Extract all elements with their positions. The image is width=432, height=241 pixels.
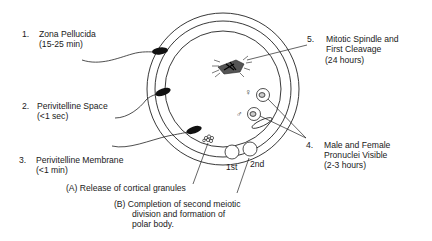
male-symbol: ♂: [236, 109, 242, 119]
label-2-title: Perivitelline Space: [37, 101, 108, 112]
label-1-title: Zona Pellucida: [39, 29, 96, 40]
label-5-title-line1: Mitotic Spindle and: [326, 34, 399, 45]
label-2-time: (<1 sec): [37, 111, 68, 122]
event-a-label: (A) Release of cortical granules: [66, 183, 186, 194]
leader-female-pronucleus: [268, 99, 306, 138]
sperm-1-icon: [82, 46, 168, 62]
leader-cortical-granules: [193, 143, 208, 184]
sperm-2-icon: [115, 86, 172, 118]
label-5-time: (24 hours): [325, 55, 364, 66]
label-1-number: 1.: [22, 29, 29, 40]
label-3-title: Perivitelline Membrane: [36, 155, 123, 166]
label-1-time: (15-25 min): [39, 39, 83, 50]
event-b-line3: polar body.: [132, 219, 174, 230]
label-4-title-line1: Male and Female: [324, 140, 390, 151]
label-5-title-line2: First Cleavage: [326, 44, 381, 55]
second-polar-body: [243, 142, 257, 156]
vitelline-membrane-ring: [165, 31, 281, 147]
mitotic-spindle-icon: [212, 56, 252, 77]
event-b-line1: (B) Completion of second meiotic: [114, 199, 241, 210]
label-4-time: (2-3 hours): [324, 160, 366, 171]
female-symbol: ♀: [245, 87, 251, 97]
first-polar-body: [225, 145, 239, 159]
second-polar-body-label: 2nd: [250, 159, 264, 169]
event-b-line2: division and formation of: [132, 209, 225, 220]
label-2-number: 2.: [22, 101, 29, 112]
label-4-title-line2: Pronuclei Visible: [324, 150, 387, 161]
first-polar-body-label: 1st: [226, 162, 237, 172]
label-3-time: (<1 min): [36, 165, 68, 176]
cortical-granules-icon: [203, 135, 214, 143]
zona-inner-ring: [155, 21, 291, 157]
label-4-number: 4.: [306, 140, 313, 151]
label-3-number: 3.: [19, 155, 26, 166]
label-5-number: 5.: [307, 34, 314, 45]
